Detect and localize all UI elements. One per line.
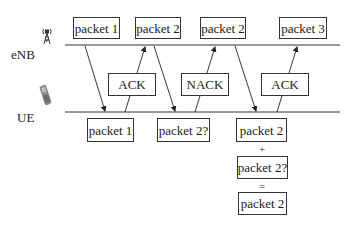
cell-tower-icon [43,29,51,44]
combine-second-label: packet 2? [238,161,287,174]
combine-first-box: packet 2 [236,118,287,142]
feedback-label: ACK [118,78,145,91]
enb-packet-box-4: packet 3 [279,17,327,39]
feedback-box-ack-2: ACK [261,73,309,96]
plus-sign: + [252,144,272,155]
ue-packet-box-2: packet 2? [157,118,210,142]
enb-packet-label: packet 2 [136,22,180,35]
downlink-arrow-1 [85,46,105,111]
ue-label: UE [17,111,34,124]
enb-packet-box-1: packet 1 [73,17,120,39]
enb-packet-box-3: packet 2 [200,17,246,39]
ue-packet-box-1: packet 1 [87,118,134,142]
feedback-box-nack: NACK [181,73,229,96]
combine-result-label: packet 2 [241,197,285,210]
feedback-label: NACK [187,78,224,91]
harq-diagram: eNB UE packet 1 packet 2 packet 2 packet… [0,0,352,228]
mobile-phone-icon [39,84,52,105]
enb-label: eNB [11,48,35,61]
combine-result-box: packet 2 [238,192,287,215]
ue-packet-label: packet 2? [159,124,208,137]
enb-packet-label: packet 3 [281,22,325,35]
feedback-label: ACK [271,78,298,91]
ue-packet-label: packet 1 [89,124,133,137]
feedback-box-ack-1: ACK [108,73,156,96]
enb-packet-label: packet 2 [201,22,245,35]
combine-first-label: packet 2 [240,124,284,137]
combine-second-box: packet 2? [237,156,288,179]
enb-packet-box-2: packet 2 [135,17,181,39]
enb-packet-label: packet 1 [75,22,119,35]
downlink-arrow-3 [235,46,256,111]
equals-sign: = [252,181,272,192]
downlink-arrow-2 [154,46,175,111]
